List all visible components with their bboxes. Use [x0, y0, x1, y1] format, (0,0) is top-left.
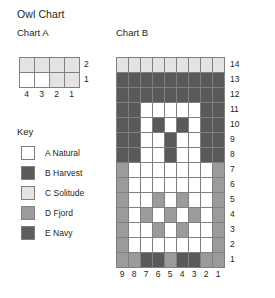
- key-swatch-e: [21, 226, 35, 240]
- chart-cell: [213, 178, 225, 193]
- chart-cell: [213, 58, 225, 73]
- chart-cell: [189, 223, 201, 238]
- chart-cell: [153, 88, 165, 103]
- chart-cell: [20, 58, 35, 73]
- chart-cell: [189, 148, 201, 163]
- chart-cell: [129, 193, 141, 208]
- chart-cell: [153, 148, 165, 163]
- row-label: 11: [228, 102, 250, 117]
- chart-cell: [117, 148, 129, 163]
- chart-cell: [177, 208, 189, 223]
- column-label: 1: [212, 269, 224, 280]
- chart-cell: [153, 223, 165, 238]
- chart-cell: [189, 118, 201, 133]
- chart-cell: [153, 208, 165, 223]
- chart-cell: [35, 58, 50, 73]
- column-label: 3: [34, 89, 49, 100]
- chart-cell: [177, 238, 189, 253]
- key-row: A Natural: [21, 143, 116, 163]
- key-title: Key: [17, 126, 33, 137]
- chart-cell: [117, 118, 129, 133]
- chart-cell: [165, 73, 177, 88]
- chart-cell: [165, 103, 177, 118]
- chart-cell: [201, 253, 213, 268]
- chart-cell: [141, 178, 153, 193]
- chart-cell: [117, 58, 129, 73]
- chart-cell: [165, 208, 177, 223]
- row-label: 7: [228, 162, 250, 177]
- chart-cell: [177, 163, 189, 178]
- chart-cell: [177, 103, 189, 118]
- chart-cell: [153, 193, 165, 208]
- chart-cell: [117, 238, 129, 253]
- key-swatch-c: [21, 186, 35, 200]
- chart-cell: [201, 208, 213, 223]
- chart-cell: [165, 178, 177, 193]
- chart-cell: [165, 148, 177, 163]
- chart-cell: [117, 208, 129, 223]
- row-label: 2: [82, 57, 96, 72]
- chart-cell: [201, 58, 213, 73]
- key-swatch-d: [21, 206, 35, 220]
- row-label: 8: [228, 147, 250, 162]
- chart-cell: [213, 133, 225, 148]
- chart-a-row-labels: 21: [82, 57, 96, 87]
- chart-cell: [213, 73, 225, 88]
- chart-cell: [165, 223, 177, 238]
- chart-cell: [201, 118, 213, 133]
- chart-a-grid: [19, 57, 80, 88]
- chart-cell: [213, 88, 225, 103]
- chart-cell: [117, 253, 129, 268]
- chart-cell: [153, 133, 165, 148]
- key-label: C Solitude: [45, 188, 84, 198]
- chart-cell: [201, 238, 213, 253]
- key-swatch-b: [21, 166, 35, 180]
- key-row: E Navy: [21, 223, 116, 243]
- chart-cell: [213, 103, 225, 118]
- chart-cell: [201, 73, 213, 88]
- chart-cell: [153, 73, 165, 88]
- chart-cell: [177, 148, 189, 163]
- chart-cell: [129, 133, 141, 148]
- row-label: 14: [228, 57, 250, 72]
- chart-cell: [165, 118, 177, 133]
- chart-cell: [129, 238, 141, 253]
- chart-cell: [153, 178, 165, 193]
- chart-cell: [213, 208, 225, 223]
- column-label: 5: [164, 269, 176, 280]
- column-label: 1: [64, 89, 79, 100]
- row-label: 10: [228, 117, 250, 132]
- chart-cell: [165, 253, 177, 268]
- row-label: 9: [228, 132, 250, 147]
- row-label: 1: [82, 72, 96, 87]
- chart-cell: [213, 238, 225, 253]
- chart-cell: [165, 193, 177, 208]
- chart-b-row-labels: 1413121110987654321: [228, 57, 250, 267]
- chart-cell: [117, 103, 129, 118]
- chart-cell: [65, 58, 80, 73]
- row-label: 1: [228, 252, 250, 267]
- chart-cell: [129, 223, 141, 238]
- chart-cell: [141, 133, 153, 148]
- chart-b-grid: [116, 57, 225, 268]
- chart-cell: [153, 238, 165, 253]
- chart-cell: [201, 88, 213, 103]
- chart-cell: [117, 163, 129, 178]
- chart-cell: [141, 58, 153, 73]
- chart-cell: [189, 178, 201, 193]
- column-label: 8: [128, 269, 140, 280]
- chart-cell: [50, 73, 65, 88]
- chart-cell: [141, 88, 153, 103]
- chart-cell: [201, 133, 213, 148]
- chart-cell: [141, 163, 153, 178]
- chart-cell: [165, 133, 177, 148]
- row-label: 6: [228, 177, 250, 192]
- column-label: 2: [49, 89, 64, 100]
- chart-cell: [20, 73, 35, 88]
- key-label: D Fjord: [45, 208, 73, 218]
- chart-a-title: Chart A: [17, 27, 49, 38]
- column-label: 7: [140, 269, 152, 280]
- column-label: 2: [200, 269, 212, 280]
- chart-cell: [177, 88, 189, 103]
- chart-cell: [177, 133, 189, 148]
